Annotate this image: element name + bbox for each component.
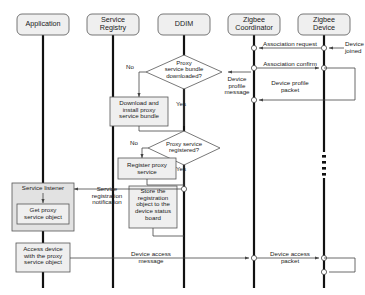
message-label-device-profile-message: Device profile message bbox=[222, 76, 252, 96]
activity-label-get-proxy-service-object: Get proxy service object bbox=[17, 207, 69, 220]
message-label-association-request: Association request bbox=[259, 41, 321, 48]
decision-no-label-bundle: No bbox=[120, 64, 140, 71]
participant-label-service-registry: Service Registry bbox=[87, 14, 139, 34]
lifeline-break-dots bbox=[322, 155, 326, 176]
participant-label-zigbee-device: Zigbee Device bbox=[298, 14, 350, 34]
message-label-device-profile-packet: Device profile packet bbox=[262, 80, 318, 93]
flow-registered-no bbox=[142, 148, 148, 158]
activity-label-store-registration-object: Store the registration object to the dev… bbox=[129, 188, 177, 221]
participant-label-ddim: DDIM bbox=[158, 14, 210, 34]
message-label-service-registration-notification: Service registration notification bbox=[83, 186, 131, 206]
decision-label-proxy-bundle-downloaded: Proxy service bundle downloaded? bbox=[154, 60, 214, 79]
message-label-device-access-packet: Device access packet bbox=[259, 251, 321, 264]
decision-no-label-registered: No bbox=[124, 140, 144, 147]
activity-label-service-listener: Service listener bbox=[12, 185, 74, 192]
decision-label-proxy-service-registered: Proxy service registered? bbox=[156, 141, 212, 154]
message-label-association-confirm: Association confirm bbox=[259, 61, 321, 68]
flow-bundle-no bbox=[139, 72, 146, 97]
lifeline-zigbee-device bbox=[322, 34, 326, 288]
message-label-device-joined: Device joined bbox=[345, 41, 365, 54]
activity-label-download-install-proxy-bundle: Download and install proxy service bundl… bbox=[110, 100, 168, 120]
decision-yes-label-registered: Yes bbox=[176, 166, 196, 173]
participant-label-application: Application bbox=[17, 14, 69, 34]
activity-label-register-proxy-service: Register proxy service bbox=[118, 162, 176, 175]
activity-label-access-device-proxy-object: Access device with the proxy service obj… bbox=[16, 246, 70, 266]
participant-label-zigbee-coordinator: Zigbee Coordinator bbox=[228, 14, 280, 34]
decision-yes-label-bundle: Yes bbox=[176, 101, 196, 108]
message-label-device-access-message: Device access message bbox=[112, 251, 190, 264]
